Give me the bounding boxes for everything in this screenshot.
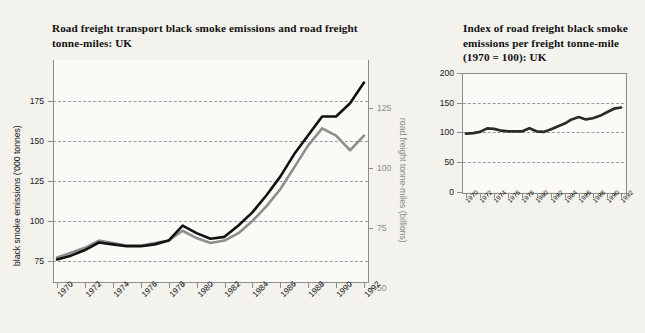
page-background: Road freight transport black smoke emiss…	[0, 0, 645, 333]
right-chart-series-group	[0, 0, 645, 333]
series-emissions-index	[466, 108, 621, 134]
